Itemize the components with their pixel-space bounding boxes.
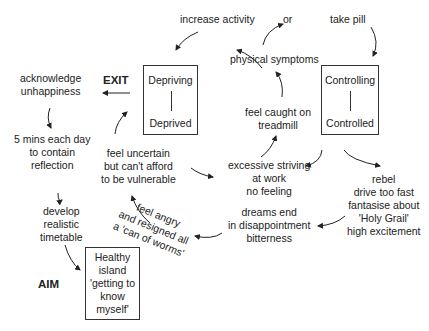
node-physical-symptoms: physical symptoms [230, 53, 319, 66]
label-exit: EXIT [103, 74, 129, 87]
box-controlling-controlled: Controlling Controlled [321, 65, 379, 135]
box-healthy-island: Healthy island 'getting to know myself' [85, 247, 140, 320]
node-feel-uncertain: feel uncertain but can't afford to be vu… [101, 147, 176, 186]
box-divider [350, 91, 351, 111]
box-controlled-label: Controlled [322, 117, 378, 129]
node-develop: develop realistic timetable [40, 205, 83, 244]
box-controlling-label: Controlling [322, 74, 378, 86]
node-dreams-end: dreams end in disappointment bitterness [228, 206, 310, 245]
node-five-mins: 5 mins each day to contain reflection [14, 133, 90, 172]
node-feel-caught: feel caught on treadmill [245, 106, 311, 132]
node-take-pill: take pill [330, 13, 366, 26]
node-excessive-striving: excessive striving at work no feeling [228, 159, 310, 198]
label-aim: AIM [38, 278, 59, 291]
node-rebel: rebel drive too fast fantasise about 'Ho… [347, 173, 421, 238]
box-depriving-deprived: Depriving Deprived [143, 65, 198, 135]
box-deprived-label: Deprived [144, 117, 197, 129]
box-depriving-label: Depriving [144, 74, 197, 86]
node-increase-activity: increase activity [180, 13, 255, 26]
node-or: or [283, 13, 292, 26]
node-acknowledge: acknowledge unhappiness [20, 72, 81, 98]
box-divider [171, 91, 172, 111]
